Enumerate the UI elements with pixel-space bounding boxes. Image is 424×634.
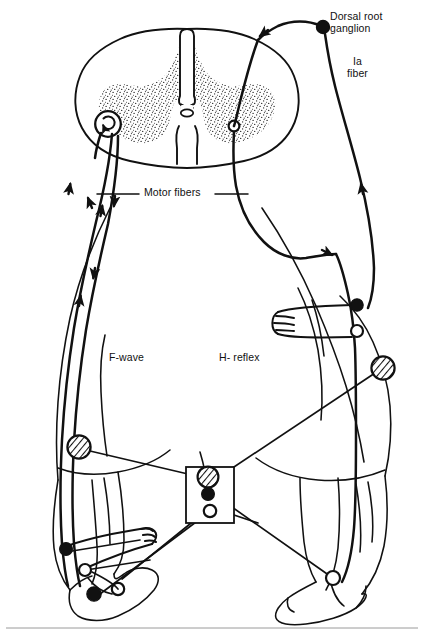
diagram-canvas — [0, 0, 424, 634]
right-calf-line — [356, 484, 361, 552]
hip-right-contour — [340, 296, 391, 476]
label-motor-fibers: Motor fibers — [144, 187, 201, 199]
electrode-box-reference[interactable] — [204, 505, 216, 517]
arrow-antidromic-2 — [93, 268, 95, 278]
electrode-box-active[interactable] — [202, 488, 215, 501]
dorsal-root-ganglion-marker — [316, 20, 329, 33]
label-ia-fiber: Ia fiber — [347, 56, 368, 80]
label-f-wave: F-wave — [109, 352, 144, 364]
motor-fiber-antidromic — [61, 134, 113, 586]
left-toe-marker-filled — [87, 587, 101, 601]
left-foot-marker-filled — [60, 543, 73, 556]
figure-root: Dorsal root ganglion Ia fiber Motor fibe… — [0, 0, 424, 634]
spindle-tine-3 — [276, 330, 294, 331]
lead-box-open-to-left-foot-2 — [100, 513, 208, 594]
left-leg-inner — [114, 472, 124, 574]
arrow-antidromic-1 — [114, 196, 115, 206]
waist-left-line — [101, 335, 107, 456]
arrow-orthodromic-2 — [79, 296, 81, 306]
right-leg-inner — [300, 478, 316, 582]
right-ankle-electrode[interactable] — [326, 571, 340, 585]
electrode-left-thigh[interactable] — [67, 435, 90, 458]
dorsal-sulcus-cleft — [179, 29, 195, 104]
label-h-reflex: H- reflex — [219, 352, 260, 364]
right-foot-outline — [276, 582, 367, 625]
lf-spindle-upper — [70, 528, 146, 545]
torso-right-contour — [262, 208, 364, 462]
spindle-marker-filled-right — [351, 299, 363, 311]
right-leg-outer — [362, 476, 387, 594]
label-dorsal-root-ganglion: Dorsal root ganglion — [330, 11, 382, 35]
spinal-cord-section — [75, 29, 298, 168]
gluteal-right — [256, 458, 385, 481]
lf-tine-2 — [143, 535, 155, 537]
arrow-motor-fibers-left — [88, 198, 92, 208]
right-toe-line — [287, 598, 294, 612]
arrow-orthodromic-3 — [69, 184, 71, 194]
right-lower-leg-contour — [368, 482, 373, 542]
electrode-right-thigh[interactable] — [371, 356, 394, 379]
lf-tine-1 — [141, 529, 153, 531]
anterior-horn-cell — [95, 111, 121, 137]
muscle-spindle-right-calf — [272, 305, 352, 338]
body-outline — [53, 208, 391, 625]
spindle-tine-2 — [274, 323, 294, 325]
left-foot-marker-open — [79, 564, 91, 576]
spindle-tine-1 — [276, 316, 294, 318]
spindle-marker-open-right — [351, 325, 363, 337]
lf-tine-3 — [145, 541, 156, 542]
central-canal — [181, 109, 193, 116]
electrode-box-hatched[interactable] — [198, 467, 219, 488]
